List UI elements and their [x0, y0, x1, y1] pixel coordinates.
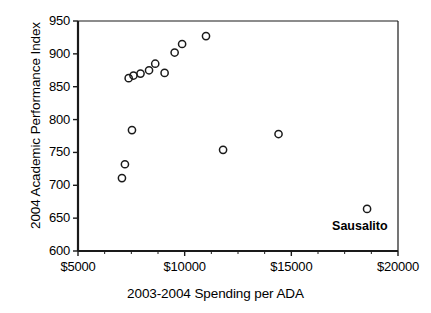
scatter-chart-figure: 2004 Academic Performance Index 2003-200… — [0, 0, 431, 313]
y-tick-label: 750 — [26, 144, 70, 159]
data-point — [219, 146, 226, 153]
data-point — [179, 40, 186, 47]
y-tick-label: 850 — [26, 79, 70, 94]
x-axis-title: 2003-2004 Spending per ADA — [0, 286, 431, 301]
data-point — [152, 60, 159, 67]
data-point — [171, 49, 178, 56]
x-tick-label: $15000 — [256, 259, 326, 274]
data-point — [137, 70, 144, 77]
y-tick-label: 600 — [26, 243, 70, 258]
data-point — [118, 174, 125, 181]
data-point — [363, 205, 370, 212]
data-point — [145, 67, 152, 74]
data-point — [121, 161, 128, 168]
data-point — [161, 69, 168, 76]
point-annotation: Sausalito — [332, 219, 388, 233]
x-tick-label: $20000 — [363, 259, 431, 274]
data-point — [202, 33, 209, 40]
data-point — [275, 130, 282, 137]
y-tick-label: 800 — [26, 112, 70, 127]
data-point — [128, 126, 135, 133]
y-tick-label: 950 — [26, 13, 70, 28]
y-tick-label: 700 — [26, 177, 70, 192]
y-tick-label: 900 — [26, 46, 70, 61]
y-tick-label: 650 — [26, 210, 70, 225]
x-tick-label: $5000 — [43, 259, 113, 274]
x-tick-label: $10000 — [150, 259, 220, 274]
